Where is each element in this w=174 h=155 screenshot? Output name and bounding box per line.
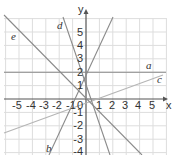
lines (4, 15, 166, 155)
line-label-d: d (57, 19, 63, 31)
svg-text:-3: -3 (73, 133, 83, 145)
svg-text:4: 4 (77, 39, 83, 51)
svg-text:3: 3 (122, 99, 128, 111)
svg-text:4: 4 (135, 99, 141, 111)
line-label-b: b (46, 142, 52, 154)
axes (4, 12, 166, 155)
svg-text:-2: -2 (52, 99, 62, 111)
svg-text:3: 3 (77, 52, 83, 64)
y-axis-arrow-icon (84, 9, 89, 14)
y-axis-label: y (78, 3, 84, 15)
coordinate-diagram: a b c d e x y -5 -4 -3 -2 -1 0 1 2 3 4 5… (0, 0, 174, 155)
svg-text:-4: -4 (26, 99, 36, 111)
line-label-a: a (146, 59, 152, 71)
svg-text:1: 1 (77, 79, 83, 91)
line-label-e: e (11, 30, 16, 42)
svg-text:-3: -3 (39, 99, 49, 111)
svg-text:-5: -5 (12, 99, 22, 111)
svg-text:-1: -1 (73, 106, 83, 118)
x-tick-labels: -5 -4 -3 -2 -1 0 1 2 3 4 5 (12, 99, 155, 111)
svg-text:5: 5 (77, 26, 83, 38)
svg-text:2: 2 (109, 99, 115, 111)
svg-text:-2: -2 (73, 119, 83, 131)
grid (4, 18, 166, 155)
x-axis-label: x (166, 99, 172, 111)
svg-text:5: 5 (149, 99, 155, 111)
svg-text:1: 1 (96, 99, 102, 111)
svg-text:2: 2 (77, 66, 83, 78)
svg-text:-4: -4 (73, 145, 83, 155)
line-label-c: c (157, 73, 162, 85)
